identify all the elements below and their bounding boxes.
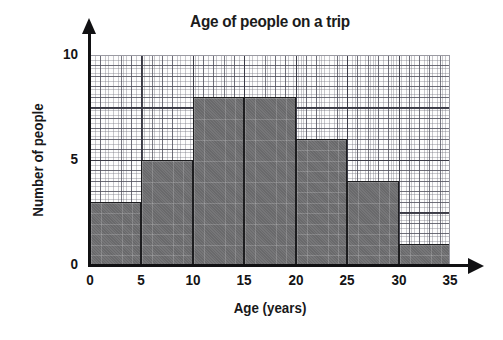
- x-tick-7: 35: [437, 271, 464, 288]
- arrow-up-icon: [82, 18, 96, 34]
- plot-area: [90, 55, 450, 265]
- x-tick-6: 30: [385, 271, 412, 288]
- x-tick-0: 0: [77, 271, 104, 288]
- x-axis-title: Age (years): [160, 300, 381, 316]
- x-tick-5: 25: [334, 271, 361, 288]
- x-tick-4: 20: [282, 271, 309, 288]
- plot-border: [90, 55, 450, 265]
- chart-title: Age of people on a trip: [163, 12, 377, 31]
- x-axis-line: [88, 264, 471, 267]
- y-axis-line: [88, 30, 91, 267]
- y-axis-title: Number of people: [30, 68, 46, 252]
- x-tick-1: 5: [128, 271, 155, 288]
- y-tick-5: 5: [53, 150, 78, 167]
- x-tick-3: 15: [231, 271, 258, 288]
- x-tick-2: 10: [179, 271, 206, 288]
- y-tick-10: 10: [53, 45, 78, 62]
- y-tick-0: 0: [53, 255, 78, 272]
- histogram-figure: Age of people on a trip 0 5 10 15 20 25 …: [0, 0, 503, 340]
- arrow-right-icon: [468, 258, 484, 274]
